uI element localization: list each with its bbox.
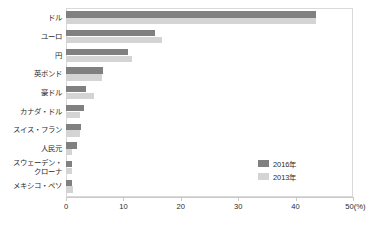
- bar-row: [66, 46, 353, 65]
- x-tick-label: 40: [291, 202, 299, 211]
- bar-2013年: [66, 74, 102, 80]
- bar-2016年: [66, 161, 72, 167]
- bar-2016年: [66, 11, 316, 17]
- x-tick: [181, 197, 182, 201]
- bar-2013年: [66, 186, 73, 192]
- category-label: メキシコ・ペソ: [0, 177, 62, 196]
- x-tick-label: 30: [234, 202, 242, 211]
- bar-2016年: [66, 124, 81, 130]
- bar-row: [66, 102, 353, 121]
- chart-legend: 2016年2013年: [258, 158, 296, 184]
- category-label: カナダ・ドル: [0, 102, 62, 121]
- x-tick-label: 0: [64, 202, 68, 211]
- category-label: ユーロ: [0, 28, 62, 47]
- x-axis-line: [66, 197, 353, 198]
- legend-item: 2013年: [258, 171, 296, 182]
- category-axis-labels: ドルユーロ円英ポンド豪ドルカナダ・ドルスイス・フラン人民元スウェーデン・ クロー…: [0, 9, 62, 196]
- category-label: 人民元: [0, 140, 62, 159]
- bar-2013年: [66, 18, 316, 24]
- bar-2013年: [66, 149, 72, 155]
- bar-chart: ドルユーロ円英ポンド豪ドルカナダ・ドルスイス・フラン人民元スウェーデン・ クロー…: [0, 0, 376, 229]
- bar-row: [66, 65, 353, 84]
- bar-2013年: [66, 93, 94, 99]
- x-tick: [123, 197, 124, 201]
- x-tick: [238, 197, 239, 201]
- bar-row: [66, 177, 353, 196]
- bar-2013年: [66, 168, 72, 174]
- bar-2013年: [66, 56, 132, 62]
- bar-rows: [66, 9, 353, 196]
- bar-row: [66, 28, 353, 47]
- category-label: 円: [0, 46, 62, 65]
- x-tick: [296, 197, 297, 201]
- bar-2016年: [66, 67, 103, 73]
- x-tick-label: 10: [119, 202, 127, 211]
- bar-2016年: [66, 142, 77, 148]
- bar-2016年: [66, 105, 84, 111]
- bar-2013年: [66, 130, 80, 136]
- bar-row: [66, 159, 353, 178]
- bar-row: [66, 9, 353, 28]
- category-label: 豪ドル: [0, 84, 62, 103]
- bar-2016年: [66, 86, 86, 92]
- legend-item: 2016年: [258, 158, 296, 169]
- bar-row: [66, 140, 353, 159]
- legend-swatch-icon: [258, 160, 269, 167]
- bar-2016年: [66, 180, 72, 186]
- legend-label: 2013年: [273, 171, 296, 182]
- category-label: 英ポンド: [0, 65, 62, 84]
- legend-swatch-icon: [258, 173, 269, 180]
- bar-row: [66, 121, 353, 140]
- legend-label: 2016年: [273, 158, 296, 169]
- x-tick-label: 20: [177, 202, 185, 211]
- x-tick: [353, 197, 354, 201]
- bar-2013年: [66, 37, 162, 43]
- bar-row: [66, 84, 353, 103]
- bar-2013年: [66, 112, 80, 118]
- category-label: スイス・フラン: [0, 121, 62, 140]
- x-tick: [66, 197, 67, 201]
- bar-2016年: [66, 49, 128, 55]
- category-label: ドル: [0, 9, 62, 28]
- x-tick-label: 50(%): [345, 202, 365, 211]
- category-label: スウェーデン・ クローナ: [0, 159, 62, 178]
- bar-2016年: [66, 30, 155, 36]
